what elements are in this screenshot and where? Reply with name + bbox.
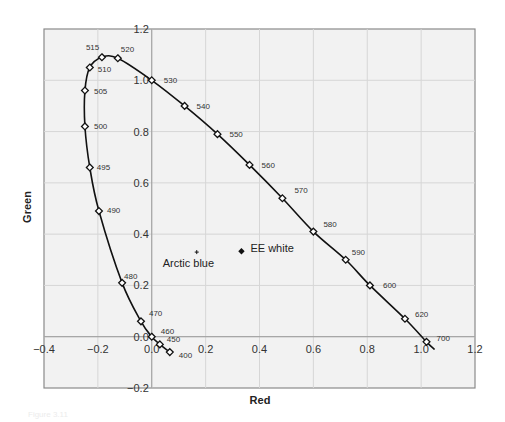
wavelength-label: 515 (86, 43, 100, 52)
wavelength-label: 470 (149, 309, 163, 318)
wavelength-label: 530 (164, 76, 178, 85)
wavelength-label: 490 (107, 206, 121, 215)
wavelength-label: 400 (179, 351, 193, 360)
wavelength-label: 450 (167, 335, 181, 344)
ee-white-label: EE white (250, 242, 293, 254)
y-tick-label: −0.2 (127, 382, 149, 394)
wavelength-label: 590 (352, 248, 366, 257)
y-tick-label: 0.0 (133, 331, 148, 343)
wavelength-label: 505 (94, 87, 108, 96)
wavelength-label: 480 (124, 272, 138, 281)
chart: −0.4−0.20.00.20.40.60.81.01.2 −0.20.00.2… (0, 0, 505, 422)
arctic-blue-label: Arctic blue (163, 257, 214, 269)
x-tick-label: 0.2 (198, 343, 213, 355)
y-tick-label: 0.6 (133, 177, 148, 189)
y-tick-label: 0.4 (133, 228, 148, 240)
x-tick-label: 1.2 (467, 343, 482, 355)
wavelength-label: 510 (98, 65, 112, 74)
wavelength-label: 520 (121, 45, 135, 54)
y-tick-label: 1.2 (133, 23, 148, 35)
figure-caption: Figure 3.11 (28, 410, 68, 419)
x-tick-label: −0.2 (87, 343, 109, 355)
x-tick-label: −0.4 (33, 343, 55, 355)
x-tick-labels: −0.4−0.20.00.20.40.60.81.01.2 (33, 343, 483, 355)
wavelength-label: 700 (437, 334, 451, 343)
y-tick-label: 0.2 (133, 279, 148, 291)
wavelength-label: 570 (294, 186, 308, 195)
wavelength-label: 495 (97, 163, 111, 172)
y-axis-label: Green (21, 191, 33, 223)
x-tick-label: 0.4 (252, 343, 267, 355)
wavelength-label: 550 (229, 130, 243, 139)
wavelength-label: 560 (262, 161, 276, 170)
wavelength-label: 580 (323, 220, 337, 229)
wavelength-label: 500 (94, 122, 108, 131)
y-tick-label: 0.8 (133, 126, 148, 138)
x-axis-label: Red (250, 394, 271, 406)
wavelength-label: 600 (383, 281, 397, 290)
wavelength-label: 460 (161, 327, 175, 336)
x-tick-label: 0.6 (306, 343, 321, 355)
wavelength-label: 620 (415, 310, 429, 319)
x-tick-label: 0.8 (360, 343, 375, 355)
wavelength-label: 540 (197, 102, 211, 111)
